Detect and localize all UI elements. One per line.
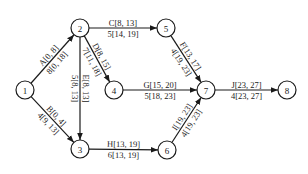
edge-label-bottom: 5[14, 19] xyxy=(107,29,138,39)
edge-label-top: J[23, 27] xyxy=(231,80,261,90)
edge-label-top: E[8, 13] xyxy=(81,75,91,103)
node-label: 4 xyxy=(112,86,117,96)
edge-label-top: G[15, 20] xyxy=(143,80,176,90)
node-4: 4 xyxy=(105,81,123,99)
edge-label-top: C[8, 13] xyxy=(109,18,138,28)
node-5: 5 xyxy=(157,19,175,37)
node-1: 1 xyxy=(16,81,34,99)
network-diagram: A[0, 8]8[0, 18]B[0, 4]4[9, 13]C[8, 13]5[… xyxy=(0,0,308,174)
node-7: 7 xyxy=(197,81,215,99)
node-label: 7 xyxy=(204,86,209,96)
edge-label-bottom: 5[8, 13] xyxy=(70,75,80,102)
node-3: 3 xyxy=(71,140,89,158)
node-label: 8 xyxy=(285,86,290,96)
node-label: 3 xyxy=(78,145,83,155)
node-label: 5 xyxy=(164,24,169,34)
edge-label-bottom: 5[18, 23] xyxy=(144,91,175,101)
node-6: 6 xyxy=(158,141,176,159)
node-label: 1 xyxy=(23,86,28,96)
edge-label-bottom: 4[23, 27] xyxy=(231,91,262,101)
node-2: 2 xyxy=(71,19,89,37)
edge-label-bottom: 6[13, 19] xyxy=(108,150,139,160)
edge-label-top: H[13, 19] xyxy=(107,139,140,149)
node-label: 2 xyxy=(78,24,83,34)
node-8: 8 xyxy=(278,81,296,99)
node-label: 6 xyxy=(165,146,170,156)
